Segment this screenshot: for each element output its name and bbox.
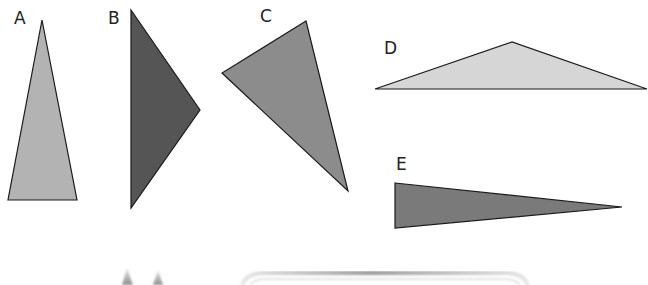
triangle-d-label: D [384, 38, 397, 58]
triangle-d: D [375, 38, 647, 89]
triangle-c: C [222, 6, 348, 191]
triangle-b-label: B [108, 8, 120, 28]
triangle-e-shape [395, 183, 622, 228]
triangle-c-shape [222, 21, 348, 191]
triangle-b: B [108, 8, 200, 208]
triangle-e-label: E [396, 154, 407, 174]
triangle-c-label: C [260, 6, 272, 26]
triangle-a-label: A [14, 8, 26, 28]
spike-right [153, 270, 163, 285]
triangle-d-shape [375, 42, 647, 89]
triangle-a-shape [8, 20, 77, 200]
triangle-diagram: A B C D E [0, 0, 648, 285]
spike-left [122, 268, 133, 285]
cropped-spikes-fragment [122, 268, 163, 285]
triangle-e: E [395, 154, 622, 228]
triangle-b-shape [131, 10, 200, 208]
rounded-frame-inner-edge [250, 279, 520, 285]
triangle-a: A [8, 8, 77, 200]
cropped-frame-fragment [242, 273, 528, 285]
